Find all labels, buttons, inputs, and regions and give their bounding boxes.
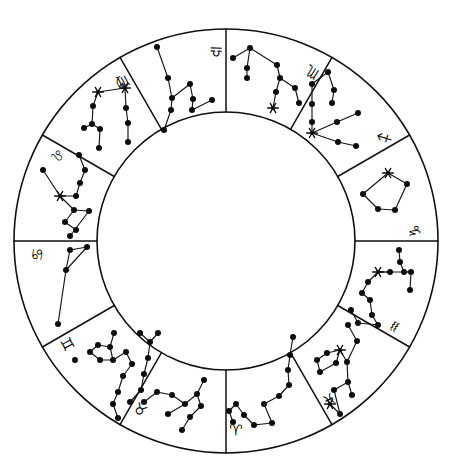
star-dot xyxy=(331,87,337,93)
star-dot xyxy=(187,414,193,420)
star-dot xyxy=(335,139,341,145)
bright-star-icon xyxy=(268,103,279,112)
star-dot xyxy=(72,357,78,363)
star-dot xyxy=(247,45,253,51)
star-dot xyxy=(138,387,144,393)
star-link xyxy=(192,100,212,110)
star-dot xyxy=(77,180,83,186)
star-dot xyxy=(127,399,133,405)
zodiac-wheel-svg: ♋♌♍♎♏♐♑♒♓♈♉♊ xyxy=(0,0,453,471)
zodiac-wheel-figure: ♋♌♍♎♏♐♑♒♓♈♉♊ xyxy=(0,0,453,471)
star-link xyxy=(168,78,172,98)
star-dot xyxy=(353,143,359,149)
star-dot xyxy=(401,269,407,275)
star-dot xyxy=(198,403,204,409)
star-dot xyxy=(86,208,92,214)
star-link xyxy=(395,184,407,210)
star-dot xyxy=(314,357,320,363)
star-dot xyxy=(110,401,116,407)
star-dot xyxy=(182,401,188,407)
star-dot xyxy=(107,344,113,350)
star-dot xyxy=(317,369,323,375)
star-dot xyxy=(244,75,250,81)
star-link xyxy=(164,110,171,130)
capricorn-glyph: ♑ xyxy=(406,224,424,238)
star-dot xyxy=(165,75,171,81)
star-dot xyxy=(187,81,193,87)
star-dot xyxy=(369,312,375,318)
star-link xyxy=(70,211,89,236)
star-dot xyxy=(354,338,360,344)
star-dot xyxy=(154,44,160,50)
star-dot xyxy=(309,101,315,107)
star-dot xyxy=(333,360,339,366)
star-dot xyxy=(115,389,121,395)
star-dot xyxy=(161,127,167,133)
constellation-star-maps xyxy=(40,44,414,433)
star-link xyxy=(337,113,358,122)
star-dot xyxy=(360,191,366,197)
star-dot xyxy=(392,207,398,213)
star-dot xyxy=(344,359,350,365)
star-dot xyxy=(375,206,381,212)
star-dot xyxy=(84,244,90,250)
star-dot xyxy=(396,247,402,253)
star-dot xyxy=(120,373,126,379)
star-dot xyxy=(97,126,103,132)
star-dot xyxy=(397,259,403,265)
star-dot xyxy=(273,89,279,95)
star-dot xyxy=(73,193,79,199)
star-dot xyxy=(277,75,283,81)
star-dot xyxy=(40,167,46,173)
star-dot xyxy=(123,105,129,111)
sector-divider-11 xyxy=(120,57,162,129)
constellation-aries xyxy=(55,244,90,327)
star-dot xyxy=(296,100,302,106)
constellation-capricorn xyxy=(226,334,296,428)
star-dot xyxy=(137,330,143,336)
aries-glyph: ♈ xyxy=(229,421,243,439)
star-link xyxy=(363,194,378,209)
star-dot xyxy=(125,139,131,145)
star-dot xyxy=(87,349,93,355)
star-dot xyxy=(276,393,282,399)
star-link xyxy=(264,404,272,423)
star-dot xyxy=(62,219,68,225)
constellation-leo xyxy=(230,45,302,113)
star-dot xyxy=(359,290,365,296)
star-dot xyxy=(125,120,131,126)
star-dot xyxy=(367,297,373,303)
star-dot xyxy=(261,401,267,407)
star-dot xyxy=(345,322,351,328)
star-dot xyxy=(155,330,161,336)
star-dot xyxy=(147,339,153,345)
star-link xyxy=(388,173,407,184)
star-dot xyxy=(67,233,73,239)
star-dot xyxy=(230,55,236,61)
star-dot xyxy=(169,95,175,101)
star-dot xyxy=(71,207,77,213)
sector-dividers xyxy=(14,29,438,453)
sector-divider-5 xyxy=(291,353,333,425)
star-dot xyxy=(355,110,361,116)
star-dot xyxy=(209,97,215,103)
inner-ring-circle xyxy=(97,112,355,370)
star-dot xyxy=(55,321,61,327)
star-dot xyxy=(63,267,69,273)
star-link xyxy=(247,48,250,68)
star-dot xyxy=(285,367,291,373)
star-link xyxy=(363,173,388,194)
star-dot xyxy=(165,411,171,417)
star-dot xyxy=(201,377,207,383)
star-dot xyxy=(387,269,393,275)
star-dot xyxy=(292,85,298,91)
star-dot xyxy=(129,361,135,367)
star-dot xyxy=(169,392,175,398)
star-dot xyxy=(244,65,250,71)
star-dot xyxy=(324,350,330,356)
star-dot xyxy=(348,307,354,313)
star-dot xyxy=(115,415,121,421)
star-dot xyxy=(82,167,88,173)
star-dot xyxy=(190,96,196,102)
constellation-taurus xyxy=(40,152,92,239)
